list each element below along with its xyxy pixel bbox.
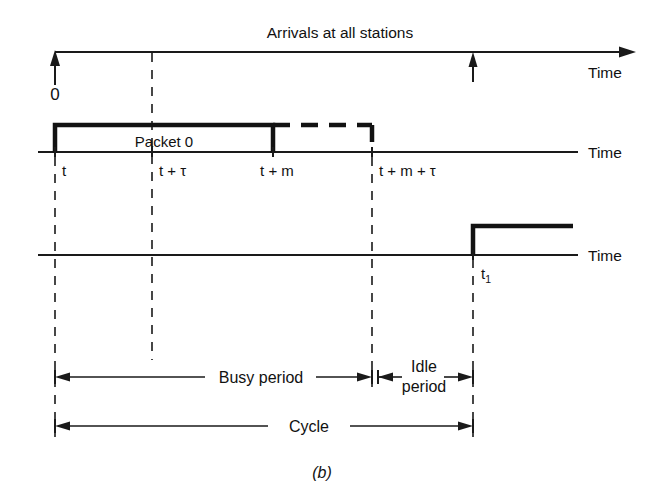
idle-period-dimension: Idle period xyxy=(378,358,473,395)
figure-caption: (b) xyxy=(312,464,332,481)
next-packet-step-pulse xyxy=(473,226,573,256)
middle-axis-time-label: Time xyxy=(588,144,622,161)
tick-label-t-plus-m: t + m xyxy=(260,162,294,179)
packet-0-label: Packet 0 xyxy=(135,133,193,150)
top-axis-time-label: Time xyxy=(588,64,622,81)
top-axis-origin-label: 0 xyxy=(50,85,59,104)
cycle-arrowhead-right-icon xyxy=(458,422,473,431)
bottom-axis-group: t1 Time xyxy=(38,226,622,285)
idle-period-label-line1: Idle xyxy=(411,358,437,375)
cycle-dimension: Cycle xyxy=(55,418,473,435)
tick-label-t-plus-tau: t + τ xyxy=(159,162,186,179)
tick-label-t-plus-m-plus-tau: t + m + τ xyxy=(379,162,436,179)
tick-label-t: t xyxy=(62,162,67,179)
tick-label-t1: t1 xyxy=(481,265,491,285)
cycle-arrowhead-left-icon xyxy=(55,422,70,431)
cycle-label: Cycle xyxy=(289,418,329,435)
bottom-axis-time-label: Time xyxy=(588,247,622,264)
idle-period-label-line2: period xyxy=(402,378,446,395)
timing-diagram: Arrivals at all stations Time 0 Packet 0… xyxy=(0,0,660,495)
busy-period-dimension: Busy period xyxy=(55,369,372,386)
busy-period-arrowhead-right-icon xyxy=(357,373,372,382)
idle-period-arrowhead-left-icon xyxy=(378,373,393,382)
top-axis-arrowhead-icon xyxy=(619,47,636,58)
middle-axis-group: Packet 0 t t + τ t + m t + m + τ Time xyxy=(38,125,622,179)
top-axis-title: Arrivals at all stations xyxy=(267,24,414,41)
arrival-arrowhead-t1-icon xyxy=(469,52,478,67)
idle-period-arrowhead-right-icon xyxy=(458,373,473,382)
busy-period-label: Busy period xyxy=(219,369,304,386)
busy-period-arrowhead-left-icon xyxy=(55,373,70,382)
tick-label-t1-subscript: 1 xyxy=(485,273,491,285)
top-axis-group: Arrivals at all stations Time 0 xyxy=(50,24,636,104)
